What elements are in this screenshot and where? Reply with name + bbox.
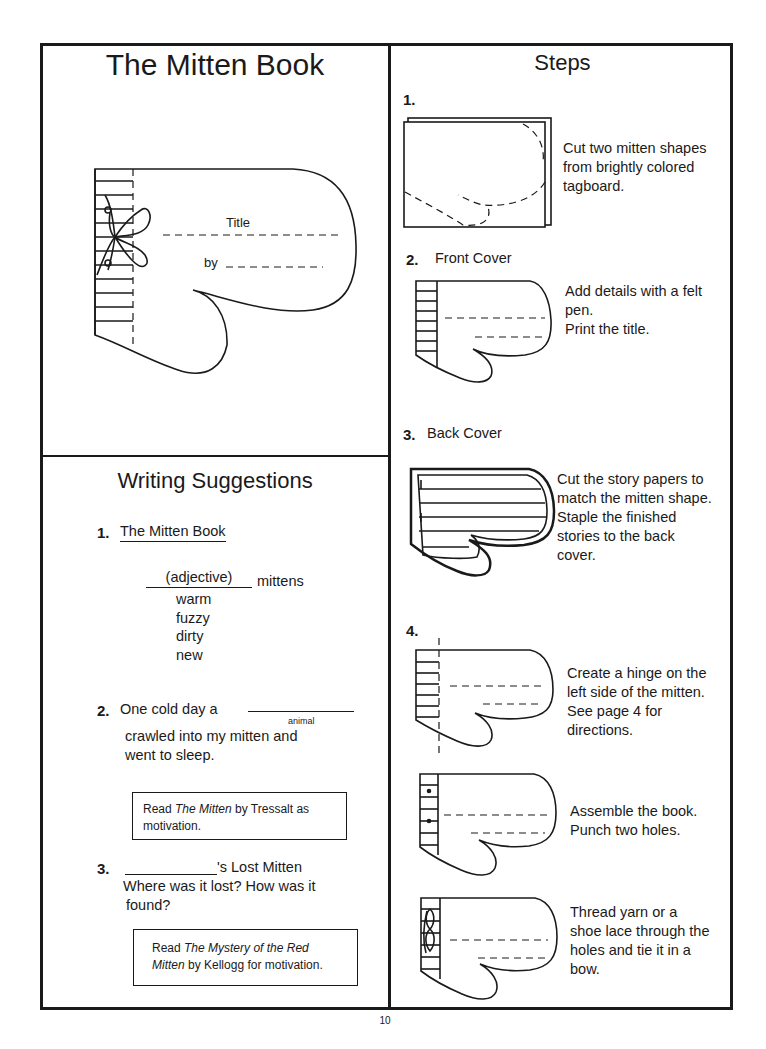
step-4-number: 4. [406, 622, 419, 639]
step-1-text: tagboard. [563, 177, 624, 196]
step-4a-text: Create a hinge on the [567, 664, 706, 683]
step-4b-text: Punch two holes. [570, 821, 680, 840]
step-4a-text: left side of the mitten. [567, 683, 705, 702]
left-panel-divider [40, 455, 390, 457]
note-text: motivation. [143, 819, 201, 833]
name-blank [125, 874, 217, 875]
suggestion-1-heading: The Mitten Book [120, 522, 226, 542]
motivation-note-box: Read The Mystery of the Red Mitten by Ke… [133, 929, 358, 986]
suggestion-2-line1: One cold day a [120, 700, 218, 719]
mitten-front-cover-icon [415, 280, 555, 385]
step-4a-text: directions. [567, 721, 633, 740]
step-4c-text: shoe lace through the [570, 922, 709, 941]
step-2-text: Add details with a felt [565, 282, 702, 301]
step-4a-text: See page 4 for [567, 702, 662, 721]
tagboard-mitten-outline-icon [403, 117, 553, 229]
mitten-hinge-icon [415, 638, 560, 753]
page-number: 10 [360, 1015, 410, 1026]
step-4c-text: Thread yarn or a [570, 903, 677, 922]
suggestion-3-number: 3. [97, 860, 110, 877]
note-text: by Tressalt as [232, 802, 309, 816]
note-text: Read [143, 802, 175, 816]
mitten-tied-bow-icon [420, 897, 565, 1007]
step-3-text: match the mitten shape. [557, 489, 712, 508]
step-4b-text: Assemble the book. [570, 802, 697, 821]
lost-mitten-label: 's Lost Mitten [217, 858, 302, 877]
suggestion-2-line3: went to sleep. [125, 746, 214, 765]
column-divider [388, 43, 391, 1010]
step-4c-text: bow. [570, 960, 600, 979]
book-title: Mitten [152, 958, 185, 972]
book-title: The Mitten [175, 802, 232, 816]
adjective-example: warm [176, 590, 211, 609]
step-3-text: cover. [557, 546, 596, 565]
animal-caption: animal [288, 716, 315, 726]
mitten-cover-with-bow-icon [93, 165, 373, 395]
suggestion-3-line2: Where was it lost? How was it [123, 877, 316, 896]
step-2-heading: Front Cover [435, 249, 512, 268]
step-2-text: Print the title. [565, 320, 650, 339]
suggestion-2-number: 2. [97, 702, 110, 719]
step-4c-text: holes and tie it in a [570, 941, 691, 960]
adjective-example: fuzzy [176, 609, 210, 628]
note-text: Read [152, 941, 184, 955]
animal-blank [248, 711, 354, 712]
step-1-number: 1. [403, 91, 416, 108]
suggestion-3-line3: found? [126, 896, 170, 915]
motivation-note-box: Read The Mitten by Tressalt as motivatio… [132, 792, 347, 840]
mitten-back-cover-lined-icon [409, 467, 557, 579]
step-1-text: Cut two mitten shapes [563, 139, 706, 158]
steps-title: Steps [390, 50, 735, 76]
adjective-example: dirty [176, 627, 203, 646]
cover-by-label: by [204, 253, 218, 272]
suggestion-2-line2: crawled into my mitten and [125, 727, 297, 746]
step-3-text: Staple the finished [557, 508, 676, 527]
adjective-example: new [176, 646, 203, 665]
step-1-text: from brightly colored [563, 158, 694, 177]
book-title: The Mystery of the Red [184, 941, 309, 955]
cover-title-label: Title [226, 213, 250, 232]
suggestion-1-number: 1. [97, 524, 110, 541]
step-3-number: 3. [403, 426, 416, 443]
cover-title: The Mitten Book [40, 48, 390, 82]
step-2-number: 2. [406, 251, 419, 268]
writing-suggestions-title: Writing Suggestions [40, 468, 390, 494]
mitten-punched-holes-icon [419, 773, 564, 883]
step-2-text: pen. [565, 301, 593, 320]
adjective-blank: (adjective) [146, 568, 252, 588]
step-3-text: Cut the story papers to [557, 470, 704, 489]
mittens-label: mittens [257, 572, 304, 591]
note-text: by Kellogg for motivation. [185, 958, 323, 972]
step-3-text: stories to the back [557, 527, 675, 546]
step-3-heading: Back Cover [427, 424, 502, 443]
